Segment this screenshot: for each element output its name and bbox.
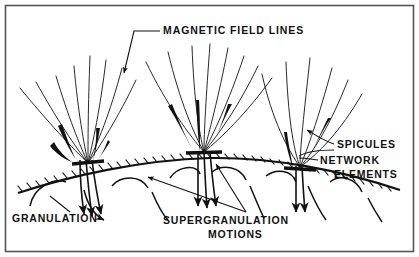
label-spicules: SPICULES — [337, 138, 396, 150]
label-motions: MOTIONS — [208, 228, 263, 240]
label-network: NETWORK — [320, 154, 380, 166]
label-elements: ELEMENTS — [334, 168, 398, 180]
label-magnetic-field-lines: MAGNETIC FIELD LINES — [163, 24, 304, 36]
label-granulation: GRANULATION — [12, 212, 98, 224]
network-element-right — [284, 168, 316, 170]
label-supergranulation: SUPERGRANULATION — [163, 214, 289, 226]
diagram-svg: MAGNETIC FIELD LINES SPICULES NETWORK EL… — [0, 0, 419, 257]
figure-container: MAGNETIC FIELD LINES SPICULES NETWORK EL… — [0, 0, 419, 257]
network-element-center — [186, 152, 222, 153]
